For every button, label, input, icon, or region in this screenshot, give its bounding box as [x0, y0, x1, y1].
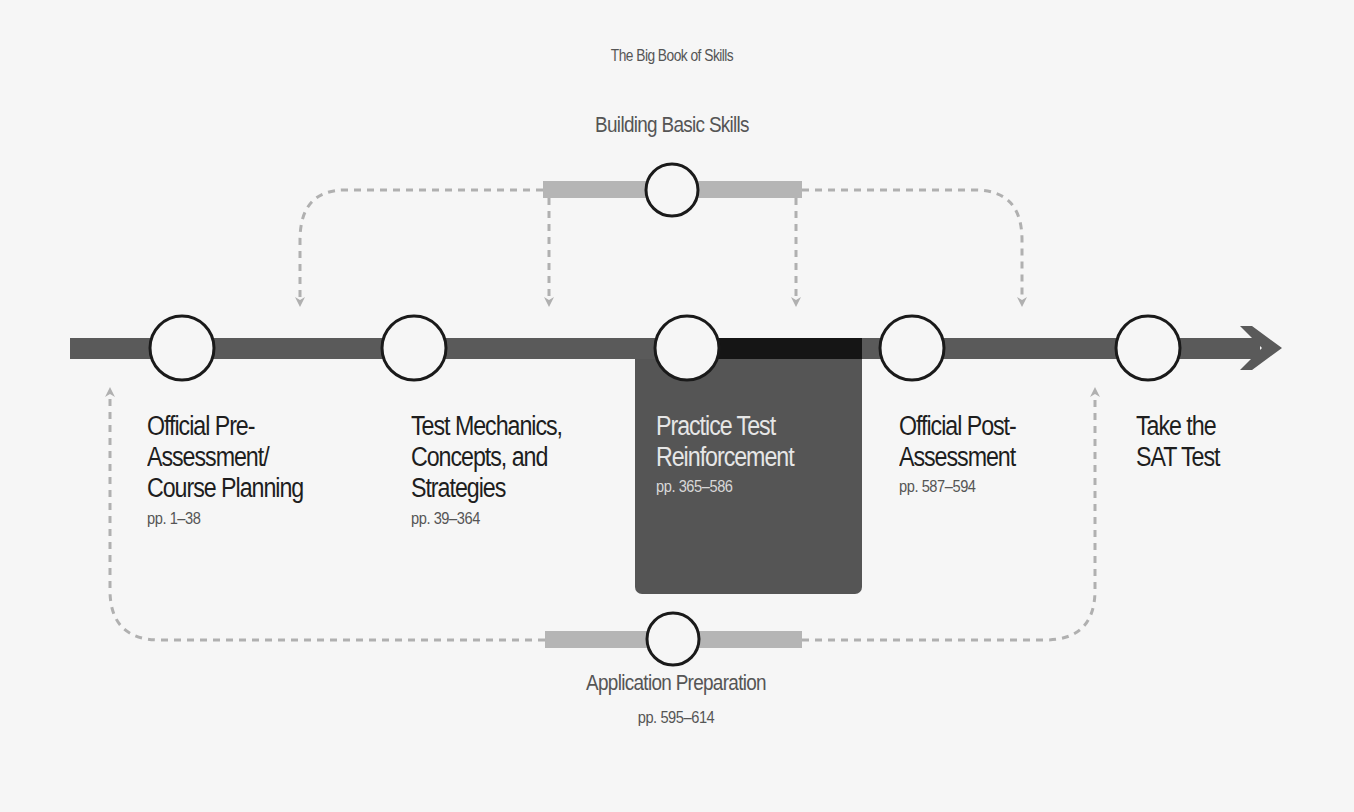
top-branch-subtitle: The Big Book of Skills	[611, 47, 733, 65]
step-practice-test: Practice Test Reinforcement pp. 365–586	[656, 411, 816, 497]
step-pages: pp. 587–594	[899, 477, 1016, 497]
step-test-mechanics: Test Mechanics, Concepts, and Strategies…	[411, 411, 587, 529]
step-pre-assessment: Official Pre- Assessment/ Course Plannin…	[147, 411, 329, 529]
bottom-branch-pages: pp. 595–614	[638, 708, 715, 728]
step-title: Test Mechanics, Concepts, and Strategies	[411, 411, 562, 504]
step-take-sat: Take the SAT Test	[1136, 411, 1233, 473]
step-title: Official Post- Assessment	[899, 411, 1016, 473]
step-title: Take the SAT Test	[1136, 411, 1219, 473]
top-branch-title: Building Basic Skills	[595, 112, 749, 138]
bottom-branch-title: Application Preparation	[586, 670, 766, 696]
step-title: Official Pre- Assessment/ Course Plannin…	[147, 411, 303, 504]
step-post-assessment: Official Post- Assessment pp. 587–594	[899, 411, 1035, 497]
step-pages: pp. 1–38	[147, 509, 303, 529]
step-title: Practice Test Reinforcement	[656, 411, 794, 473]
step-pages: pp. 39–364	[411, 509, 562, 529]
step-pages: pp. 365–586	[656, 477, 794, 497]
